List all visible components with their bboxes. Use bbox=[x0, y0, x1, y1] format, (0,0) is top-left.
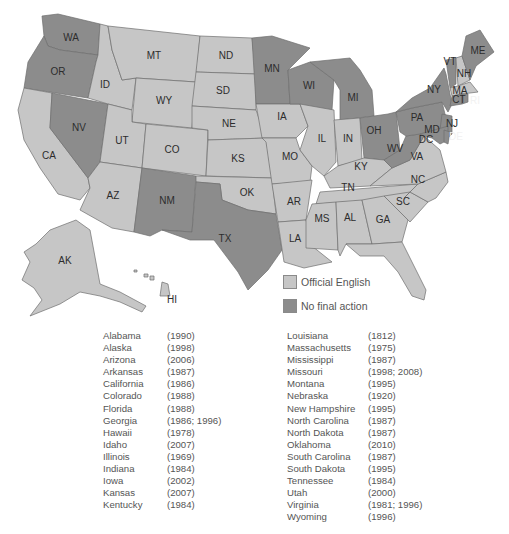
adoption-years: (2007) bbox=[167, 439, 195, 451]
label-KS: KS bbox=[231, 153, 245, 164]
adoption-years: (1987) bbox=[167, 366, 195, 378]
adoption-years: (1995) bbox=[368, 378, 396, 390]
label-NY: NY bbox=[427, 84, 441, 95]
adoption-years: (1987) bbox=[368, 451, 396, 463]
state-name: Montana bbox=[287, 378, 368, 390]
state-name: Tennessee bbox=[287, 475, 368, 487]
label-RI: RI bbox=[470, 95, 480, 106]
adoption-years: (1987) bbox=[368, 354, 396, 366]
adoption-years: (1998) bbox=[167, 342, 195, 354]
states-list-right: Louisiana(1812)Massachusetts(1975)Missis… bbox=[287, 330, 422, 524]
state-name: Massachusetts bbox=[287, 342, 368, 354]
state-HI-2 bbox=[150, 276, 154, 280]
state-name: Florida bbox=[103, 403, 167, 415]
state-HI-4 bbox=[134, 270, 137, 272]
state-list-row: Louisiana(1812) bbox=[287, 330, 422, 342]
us-map: WA OR CA ID NV MT WY UT CO AZ NM ND SD N… bbox=[0, 0, 509, 330]
label-NE: NE bbox=[222, 118, 236, 129]
state-list-row: Wyoming(1996) bbox=[287, 511, 422, 523]
adoption-years: (1984) bbox=[167, 499, 195, 511]
adoption-years: (1988) bbox=[167, 403, 195, 415]
adoption-years: (1995) bbox=[368, 463, 396, 475]
adoption-years: (1812) bbox=[368, 330, 396, 342]
label-CT: CT bbox=[452, 94, 465, 105]
label-OK: OK bbox=[240, 187, 255, 198]
state-name: Wyoming bbox=[287, 511, 368, 523]
adoption-years: (1986; 1996) bbox=[167, 415, 221, 427]
label-GA: GA bbox=[376, 214, 391, 225]
legend-swatch-official-english bbox=[283, 275, 297, 289]
state-NY bbox=[396, 68, 452, 112]
label-ME: ME bbox=[471, 45, 486, 56]
label-MN: MN bbox=[264, 63, 280, 74]
label-HI: HI bbox=[167, 294, 177, 305]
adoption-years: (1986) bbox=[167, 378, 195, 390]
label-LA: LA bbox=[289, 233, 302, 244]
label-KY: KY bbox=[354, 161, 368, 172]
state-name: Alaska bbox=[103, 342, 167, 354]
states-list-left: Alabama(1990)Alaska(1998)Arizona(2006)Ar… bbox=[103, 330, 221, 511]
label-DE: DE bbox=[449, 131, 463, 142]
label-DC: DC bbox=[419, 134, 433, 145]
state-list-row: Oklahoma(2010) bbox=[287, 439, 422, 451]
legend-label: No final action bbox=[301, 300, 368, 312]
state-AK bbox=[22, 220, 146, 316]
label-VT: VT bbox=[444, 56, 457, 67]
state-list-row: Georgia(1986; 1996) bbox=[103, 415, 221, 427]
adoption-years: (1995) bbox=[368, 403, 396, 415]
label-IL: IL bbox=[318, 133, 327, 144]
adoption-years: (1969) bbox=[167, 451, 195, 463]
legend-item-no-final-action: No final action bbox=[283, 298, 370, 314]
label-WY: WY bbox=[156, 95, 172, 106]
label-OR: OR bbox=[51, 66, 66, 77]
state-name: Louisiana bbox=[287, 330, 368, 342]
adoption-years: (1990) bbox=[167, 330, 195, 342]
label-AL: AL bbox=[344, 212, 357, 223]
state-name: Nebraska bbox=[287, 390, 368, 402]
state-HI-3 bbox=[144, 274, 148, 277]
state-list-row: California(1986) bbox=[103, 378, 221, 390]
label-IN: IN bbox=[343, 133, 353, 144]
label-MI: MI bbox=[347, 92, 358, 103]
state-MS bbox=[306, 202, 338, 250]
state-list-row: Idaho(2007) bbox=[103, 439, 221, 451]
state-name: Virginia bbox=[287, 499, 368, 511]
state-list-row: Colorado(1988) bbox=[103, 390, 221, 402]
state-name: North Carolina bbox=[287, 415, 368, 427]
state-name: Georgia bbox=[103, 415, 167, 427]
adoption-years: (2006) bbox=[167, 354, 195, 366]
legend-item-official-english: Official English bbox=[283, 274, 370, 290]
state-name: Iowa bbox=[103, 475, 167, 487]
adoption-years: (1920) bbox=[368, 390, 396, 402]
adoption-years: (1987) bbox=[368, 427, 396, 439]
label-NJ: NJ bbox=[446, 118, 458, 129]
label-AZ: AZ bbox=[107, 190, 120, 201]
state-name: Idaho bbox=[103, 439, 167, 451]
label-TX: TX bbox=[219, 233, 232, 244]
state-name: California bbox=[103, 378, 167, 390]
adoption-years: (1981; 1996) bbox=[368, 499, 422, 511]
state-list-row: Indiana(1984) bbox=[103, 463, 221, 475]
state-name: Hawaii bbox=[103, 427, 167, 439]
state-name: New Hampshire bbox=[287, 403, 368, 415]
state-list-row: Nebraska(1920) bbox=[287, 390, 422, 402]
label-NH: NH bbox=[457, 68, 471, 79]
label-ND: ND bbox=[219, 50, 233, 61]
label-WV: WV bbox=[387, 143, 403, 154]
state-name: Illinois bbox=[103, 451, 167, 463]
legend-swatch-no-final-action bbox=[283, 299, 297, 313]
adoption-years: (2007) bbox=[167, 487, 195, 499]
state-list-row: Alabama(1990) bbox=[103, 330, 221, 342]
state-list-row: Virginia(1981; 1996) bbox=[287, 499, 422, 511]
state-name: Missouri bbox=[287, 366, 368, 378]
state-list-row: South Dakota(1995) bbox=[287, 463, 422, 475]
state-name: Colorado bbox=[103, 390, 167, 402]
adoption-years: (2002) bbox=[167, 475, 195, 487]
state-name: Arkansas bbox=[103, 366, 167, 378]
state-list-row: North Dakota(1987) bbox=[287, 427, 422, 439]
state-list-row: South Carolina(1987) bbox=[287, 451, 422, 463]
label-MT: MT bbox=[147, 50, 161, 61]
state-name: South Carolina bbox=[287, 451, 368, 463]
state-list-row: Utah(2000) bbox=[287, 487, 422, 499]
adoption-years: (1998; 2008) bbox=[368, 366, 422, 378]
